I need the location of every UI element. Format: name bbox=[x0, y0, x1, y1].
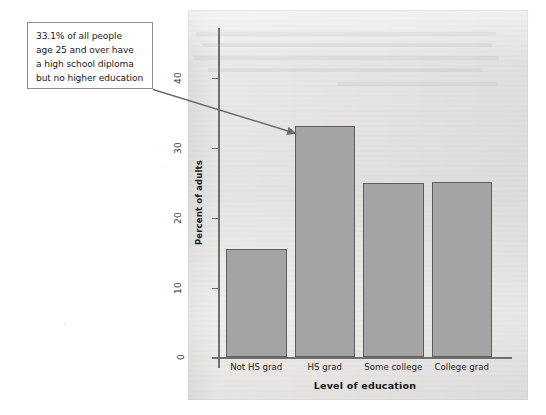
scanned-page: 0 10 20 30 40 Percent of adults bbox=[0, 0, 546, 415]
x-tick-label-not-hs-grad: Not HS grad bbox=[226, 362, 287, 372]
y-axis-line bbox=[218, 28, 220, 368]
callout-line-2: age 25 and over have bbox=[36, 43, 145, 57]
bar-not-hs-grad[interactable] bbox=[226, 249, 287, 357]
statistic-callout-box: 33.1% of all people age 25 and over have… bbox=[27, 22, 153, 89]
callout-line-3: a high school diploma bbox=[36, 57, 145, 71]
y-tick-label-30: 30 bbox=[173, 142, 183, 154]
y-tick-label-0: 0 bbox=[176, 354, 186, 360]
y-tick-label-20: 20 bbox=[173, 212, 183, 224]
chart-panel: 0 10 20 30 40 Percent of adults bbox=[188, 10, 528, 400]
plot-area: 0 10 20 30 40 Percent of adults bbox=[188, 10, 528, 400]
callout-line-1: 33.1% of all people bbox=[36, 29, 145, 43]
bar-some-college[interactable] bbox=[363, 183, 424, 357]
y-tick-label-10: 10 bbox=[173, 282, 183, 294]
bar-hs-grad[interactable] bbox=[295, 126, 356, 357]
y-axis-title: Percent of adults bbox=[194, 160, 204, 245]
x-axis-line bbox=[218, 357, 512, 359]
bar-college-grad[interactable] bbox=[432, 182, 493, 357]
y-tick-label-40: 40 bbox=[173, 72, 183, 84]
x-tick-label-some-college: Some college bbox=[363, 362, 424, 372]
x-tick-label-hs-grad: HS grad bbox=[295, 362, 356, 372]
x-tick-label-college-grad: College grad bbox=[432, 362, 493, 372]
callout-line-4: but no higher education bbox=[36, 71, 145, 85]
x-axis-title: Level of education bbox=[218, 380, 512, 391]
